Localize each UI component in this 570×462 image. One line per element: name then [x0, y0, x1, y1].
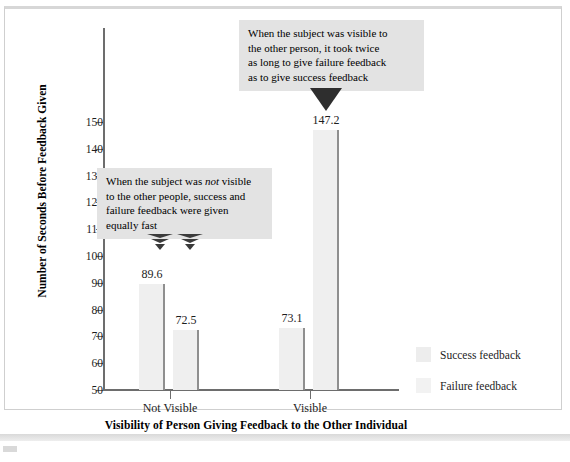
bar-value-not-visible-success: 89.6: [122, 267, 182, 282]
x-label-not-visible: Not Visible: [110, 401, 230, 416]
callout-not-visible-line1-a: When the subject was: [106, 175, 205, 187]
callout-not-visible-line3: failure feedback were given: [106, 203, 263, 218]
y-tick-label-120-wrap: 120: [52, 197, 103, 207]
page-corner-mark: [3, 446, 17, 452]
callout-visible-line1: When the subject was visible to: [248, 26, 415, 41]
y-tick-label-90-wrap: 90: [52, 278, 103, 288]
callout-not-visible-emphasis: not: [205, 175, 219, 187]
y-tick-label-140-wrap: 140: [52, 144, 103, 154]
y-tick-label-60-wrap: 60: [52, 358, 103, 368]
bar-value-visible-failure: 147.2: [296, 113, 356, 128]
legend-label-success: Success feedback: [440, 349, 521, 361]
bar-not-visible-success: [139, 284, 165, 390]
bar-not-visible-failure: [173, 330, 199, 390]
y-tick-label-150: 150: [65, 117, 103, 127]
y-tick-label-80-wrap: 80: [52, 305, 103, 315]
x-tick-not-visible: [170, 391, 171, 399]
y-tick-label-130-wrap: 130: [52, 171, 103, 181]
bar-visible-failure: [313, 130, 339, 391]
callout-not-visible-line1: When the subject was not visible: [106, 174, 263, 189]
legend-label-failure: Failure feedback: [440, 380, 517, 392]
callout-visible: When the subject was visible to the othe…: [239, 20, 424, 91]
callout-visible-line4: as to give success feedback: [248, 70, 415, 85]
callout-not-visible-line4: equally fast: [106, 218, 263, 233]
down-arrow-icon-visible-failure: [310, 88, 342, 111]
callout-not-visible-line2: to the other people, success and: [106, 189, 263, 204]
bar-visible-success: [279, 328, 305, 390]
legend-swatch-success: [416, 347, 431, 362]
y-tick-label-70-wrap: 70: [52, 331, 103, 341]
callout-not-visible: When the subject was not visible to the …: [97, 168, 272, 239]
callout-not-visible-line1-b: visible: [219, 175, 251, 187]
stacked-down-arrow-icon-failure: [177, 234, 203, 251]
y-tick-label-50: 50: [65, 385, 103, 395]
y-tick-label-70: 70: [65, 331, 103, 341]
y-tick-label-50-wrap: 50: [52, 385, 103, 395]
y-tick-label-90: 90: [65, 278, 103, 288]
callout-visible-line3: as long to give failure feedback: [248, 55, 415, 70]
callout-visible-line2: the other person, it took twice: [248, 41, 415, 56]
y-tick-label-80: 80: [65, 305, 103, 315]
y-tick-label-110-wrap: 110: [52, 224, 103, 234]
x-label-visible: Visible: [250, 401, 370, 416]
x-tick-visible: [310, 391, 311, 399]
y-tick-label-60: 60: [65, 358, 103, 368]
y-tick-label-150-wrap: 150: [52, 117, 103, 127]
bar-chart: 150 140 130 120 110 100 90 80 70 60 50 N…: [0, 0, 570, 462]
y-tick-label-100-wrap: 100: [52, 251, 103, 261]
legend-item-failure: Failure feedback: [416, 377, 556, 394]
legend-swatch-failure: [416, 378, 431, 393]
bar-value-not-visible-failure: 72.5: [156, 313, 216, 328]
stacked-down-arrow-icon-success: [147, 234, 173, 251]
y-tick-label-100: 100: [65, 251, 103, 261]
legend-item-success: Success feedback: [416, 346, 556, 363]
y-axis-title: Number of Seconds Before Feedback Given: [36, 61, 48, 321]
y-tick-label-140: 140: [65, 144, 103, 154]
x-axis-title: Visibility of Person Giving Feedback to …: [56, 419, 456, 431]
legend: Success feedback Failure feedback: [416, 346, 556, 408]
page-bottom-band: [0, 434, 570, 441]
